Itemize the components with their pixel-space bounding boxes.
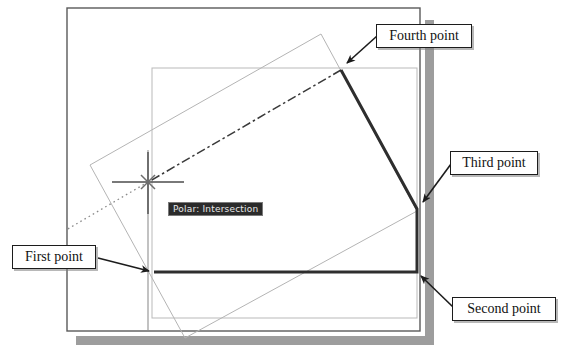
callout-second-point-label: Second point xyxy=(467,302,541,316)
callout-second-point: Second point xyxy=(452,297,556,321)
snap-tooltip: Polar: Intersection xyxy=(168,202,263,216)
callout-third-point: Third point xyxy=(450,151,538,175)
callout-fourth-point-label: Fourth point xyxy=(389,29,459,43)
callout-third-point-label: Third point xyxy=(462,156,525,170)
callout-first-point-label: First point xyxy=(25,250,83,264)
cad-figure: Fourth point Third point First point Sec… xyxy=(0,0,564,362)
drawing-sheet xyxy=(67,8,420,331)
snap-tooltip-text: Polar: Intersection xyxy=(173,203,258,215)
callout-first-point: First point xyxy=(12,245,96,269)
callout-fourth-point: Fourth point xyxy=(376,24,472,48)
